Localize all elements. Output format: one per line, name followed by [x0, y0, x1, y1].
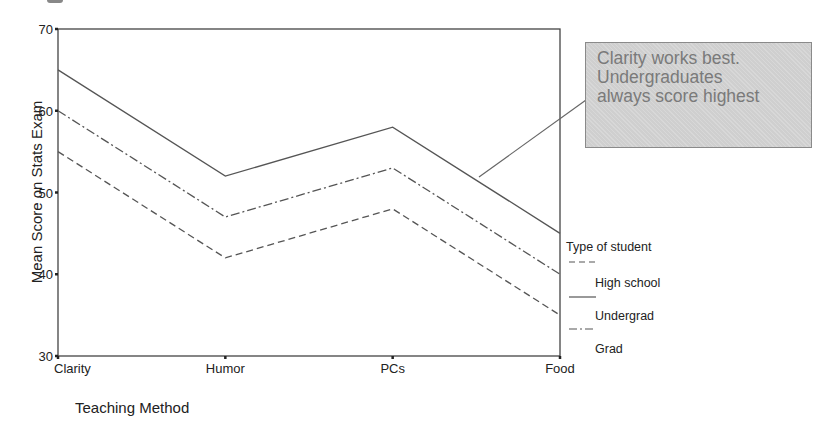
annotation-callout: Clarity works best. Undergraduates alway… — [585, 42, 812, 148]
x-tick-label: PCs — [380, 361, 405, 376]
x-axis-title: Teaching Method — [75, 399, 189, 416]
annotation-line-2: Undergraduates — [597, 68, 801, 87]
series-line-grad — [58, 111, 560, 275]
series-line-high-school — [58, 152, 560, 316]
series-lines — [58, 70, 560, 315]
y-axis-title: Mean Score on Stats Exam — [28, 101, 45, 284]
annotation-leader-line — [479, 100, 586, 177]
legend-label-high-school: High school — [595, 276, 660, 290]
y-tick-label: 30 — [39, 349, 53, 364]
x-tick-label: Clarity — [54, 361, 91, 376]
series-line-undergrad — [58, 70, 560, 234]
y-tick-label: 70 — [39, 22, 53, 37]
x-tick-label: Food — [545, 361, 575, 376]
legend-title: Type of student — [566, 240, 652, 254]
annotation-line-3: always score highest — [597, 87, 801, 106]
x-axis: ClarityHumorPCsFood — [54, 356, 575, 376]
legend-label-grad: Grad — [595, 342, 623, 356]
legend: Type of student High school Undergrad Gr… — [566, 240, 660, 356]
annotation-line-1: Clarity works best. — [597, 49, 801, 68]
legend-label-undergrad: Undergrad — [595, 309, 654, 323]
x-tick-label: Humor — [206, 361, 246, 376]
